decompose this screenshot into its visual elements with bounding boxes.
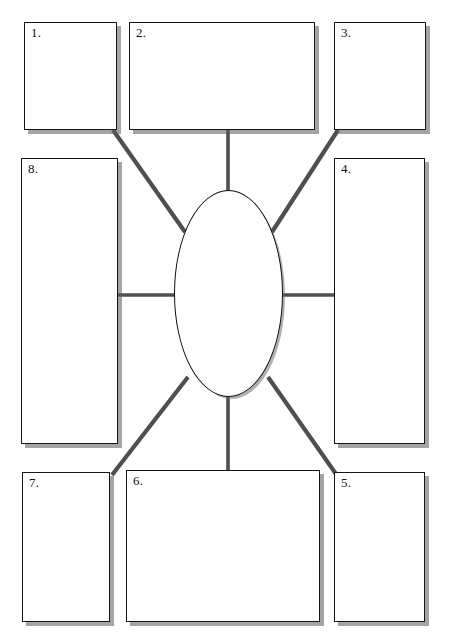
box-5[interactable]: 5. (334, 472, 425, 622)
box-7-label: 7. (29, 475, 39, 490)
box-8-label: 8. (28, 161, 38, 176)
box-7[interactable]: 7. (22, 472, 110, 622)
connector-line-3 (272, 130, 338, 232)
box-4[interactable]: 4. (334, 158, 425, 444)
box-1-label: 1. (31, 25, 41, 40)
center-oval[interactable] (174, 190, 283, 397)
connector-line-5 (268, 377, 336, 474)
box-2-label: 2. (136, 25, 146, 40)
box-3-label: 3. (341, 25, 351, 40)
box-5-label: 5. (341, 475, 351, 490)
box-6[interactable]: 6. (126, 470, 320, 622)
connector-line-7 (112, 377, 188, 475)
box-3[interactable]: 3. (334, 22, 426, 130)
box-1[interactable]: 1. (24, 22, 117, 130)
box-6-label: 6. (133, 473, 143, 488)
connector-line-1 (113, 130, 185, 232)
worksheet-canvas: 1. 2. 3. 4. 5. 6. 7. 8. (0, 0, 450, 642)
box-4-label: 4. (341, 161, 351, 176)
box-8[interactable]: 8. (21, 158, 118, 444)
box-2[interactable]: 2. (129, 22, 315, 130)
